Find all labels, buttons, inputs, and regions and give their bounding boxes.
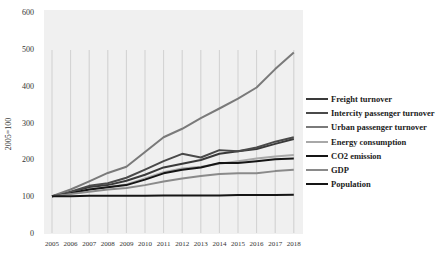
x-tick-label: 2013 <box>194 240 209 248</box>
x-tick-label: 2007 <box>82 240 97 248</box>
x-tick-label: 2009 <box>119 240 134 248</box>
y-tick-label: 400 <box>22 82 34 91</box>
y-tick-label: 600 <box>22 8 34 17</box>
legend-label: Energy consumption <box>331 137 406 147</box>
legend-item: Population <box>306 177 435 191</box>
x-tick-label: 2014 <box>212 240 227 248</box>
legend-swatch <box>306 112 328 114</box>
legend-swatch <box>306 183 328 185</box>
x-tick-label: 2017 <box>268 240 283 248</box>
y-tick-label: 0 <box>30 229 34 238</box>
legend-swatch <box>306 98 328 100</box>
legend-swatch <box>306 169 328 171</box>
x-axis-ticks: 2005200620072008200920102011201220132014… <box>45 240 301 248</box>
y-tick-label: 500 <box>22 45 34 54</box>
legend-item: Intercity passenger turnover <box>306 106 435 120</box>
x-tick-label: 2006 <box>64 240 79 248</box>
y-tick-label: 300 <box>22 119 34 128</box>
legend-label: Urban passenger turnover <box>331 122 427 132</box>
x-tick-label: 2011 <box>157 240 171 248</box>
x-tick-label: 2005 <box>45 240 60 248</box>
legend-label: Freight turnover <box>331 94 392 104</box>
legend: Freight turnoverIntercity passenger turn… <box>306 92 435 191</box>
x-tick-label: 2016 <box>250 240 265 248</box>
x-tick-label: 2018 <box>287 240 302 248</box>
y-axis-ticks: 0100200300400500600 <box>22 8 34 238</box>
legend-label: Population <box>331 179 371 189</box>
series-line-population <box>52 195 294 196</box>
y-tick-label: 100 <box>22 192 34 201</box>
plot-background <box>44 10 303 234</box>
legend-swatch <box>306 141 328 143</box>
x-tick-label: 2015 <box>231 240 246 248</box>
legend-swatch <box>306 126 328 128</box>
y-tick-label: 200 <box>22 155 34 164</box>
legend-item: Energy consumption <box>306 135 435 149</box>
y-axis-label: 2005=100 <box>4 118 13 151</box>
legend-item: Urban passenger turnover <box>306 120 435 134</box>
legend-label: CO2 emission <box>331 151 381 161</box>
x-tick-label: 2012 <box>175 240 190 248</box>
legend-item: CO2 emission <box>306 149 435 163</box>
legend-label: Intercity passenger turnover <box>331 108 435 118</box>
legend-label: GDP <box>331 165 349 175</box>
x-tick-label: 2008 <box>101 240 116 248</box>
legend-swatch <box>306 155 328 157</box>
x-tick-label: 2010 <box>138 240 153 248</box>
legend-item: GDP <box>306 163 435 177</box>
legend-item: Freight turnover <box>306 92 435 106</box>
